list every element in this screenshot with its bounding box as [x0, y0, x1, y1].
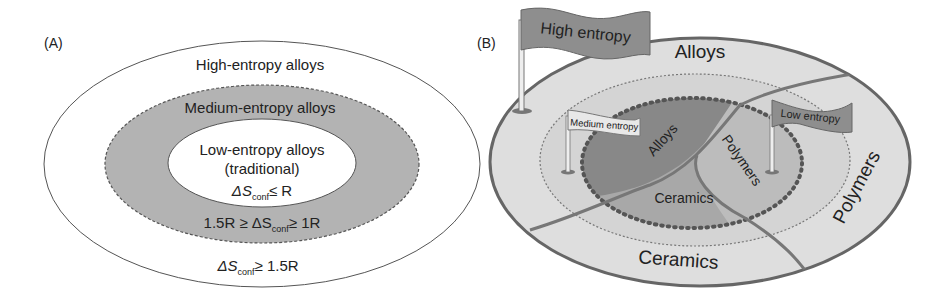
panel-b: (B) Alloys Ceramics Polymers Alloys Poly…	[477, 8, 910, 286]
high-entropy-title: High-entropy alloys	[196, 56, 324, 73]
inner-ceramics-label: Ceramics	[654, 190, 713, 206]
panel-a-label: (A)	[44, 35, 63, 51]
diagram-canvas: (A) High-entropy alloys Medium-entropy a…	[0, 0, 935, 301]
panel-b-label: (B)	[477, 35, 496, 51]
low-entropy-subtitle: (traditional)	[224, 160, 299, 177]
low-entropy-title: Low-entropy alloys	[199, 141, 324, 158]
panel-a: (A) High-entropy alloys Medium-entropy a…	[44, 35, 480, 287]
medium-entropy-title: Medium-entropy alloys	[185, 99, 336, 116]
outer-alloys-label: Alloys	[675, 41, 726, 62]
